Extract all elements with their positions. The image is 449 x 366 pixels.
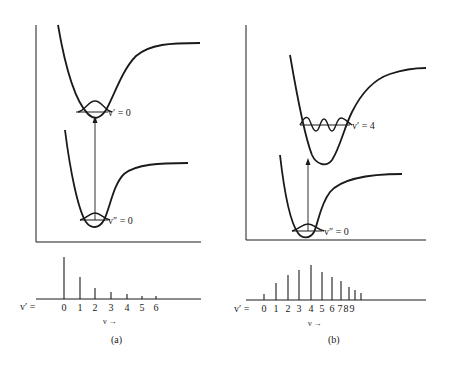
panel-b — [246, 25, 426, 240]
panel-a-vprime-prefix: v′ = — [20, 301, 36, 312]
panel-a-lower-level-label: v″ = 0 — [108, 215, 133, 226]
tick-label: 3 — [109, 302, 114, 313]
tick-label: 2 — [286, 303, 291, 314]
tick-label: 4 — [309, 303, 314, 314]
panel-a-frequency-axis-label: ν → — [103, 317, 117, 326]
tick-label: 5 — [140, 302, 145, 313]
tick-label: 6 — [154, 302, 159, 313]
tick-label: 4 — [125, 302, 130, 313]
panel-b-vprime-prefix: v′ = — [234, 303, 250, 314]
panel-a — [36, 25, 201, 242]
panel-b-tick-labels: 0 1 2 3 4 5 6 7 8 9 — [262, 303, 355, 314]
panel-a-caption: (a) — [111, 334, 122, 346]
panel-a-upper-potential-curve — [58, 25, 200, 118]
franck-condon-diagram: v′ = 0 v″ = 0 v′ = 0 1 2 3 4 5 6 ν → (a) — [0, 0, 449, 366]
panel-b-upper-level-label: v′ = 4 — [352, 120, 375, 131]
panel-b-lower-level-label: v″ = 0 — [324, 226, 349, 237]
panel-b-arrowhead-icon — [306, 158, 311, 165]
panel-a-spectrum — [36, 257, 201, 299]
tick-label: 2 — [93, 302, 98, 313]
tick-label: 3 — [297, 303, 302, 314]
panel-b-spectrum — [246, 265, 426, 300]
panel-a-upper-level-label: v′ = 0 — [108, 107, 131, 118]
tick-label: 6 — [330, 303, 335, 314]
tick-label: 0 — [262, 303, 267, 314]
panel-b-upper-potential-curve — [290, 55, 426, 164]
tick-label: 7 — [338, 303, 343, 314]
tick-label: 1 — [274, 303, 279, 314]
tick-label: 8 — [344, 303, 349, 314]
panel-a-tick-labels: 0 1 2 3 4 5 6 — [62, 302, 159, 313]
tick-label: 1 — [78, 302, 83, 313]
tick-label: 5 — [320, 303, 325, 314]
panel-b-frequency-axis-label: ν → — [308, 319, 322, 328]
panel-b-caption: (b) — [328, 334, 340, 346]
tick-label: 0 — [62, 302, 67, 313]
panel-a-lower-potential-curve — [65, 130, 188, 227]
tick-label: 9 — [350, 303, 355, 314]
